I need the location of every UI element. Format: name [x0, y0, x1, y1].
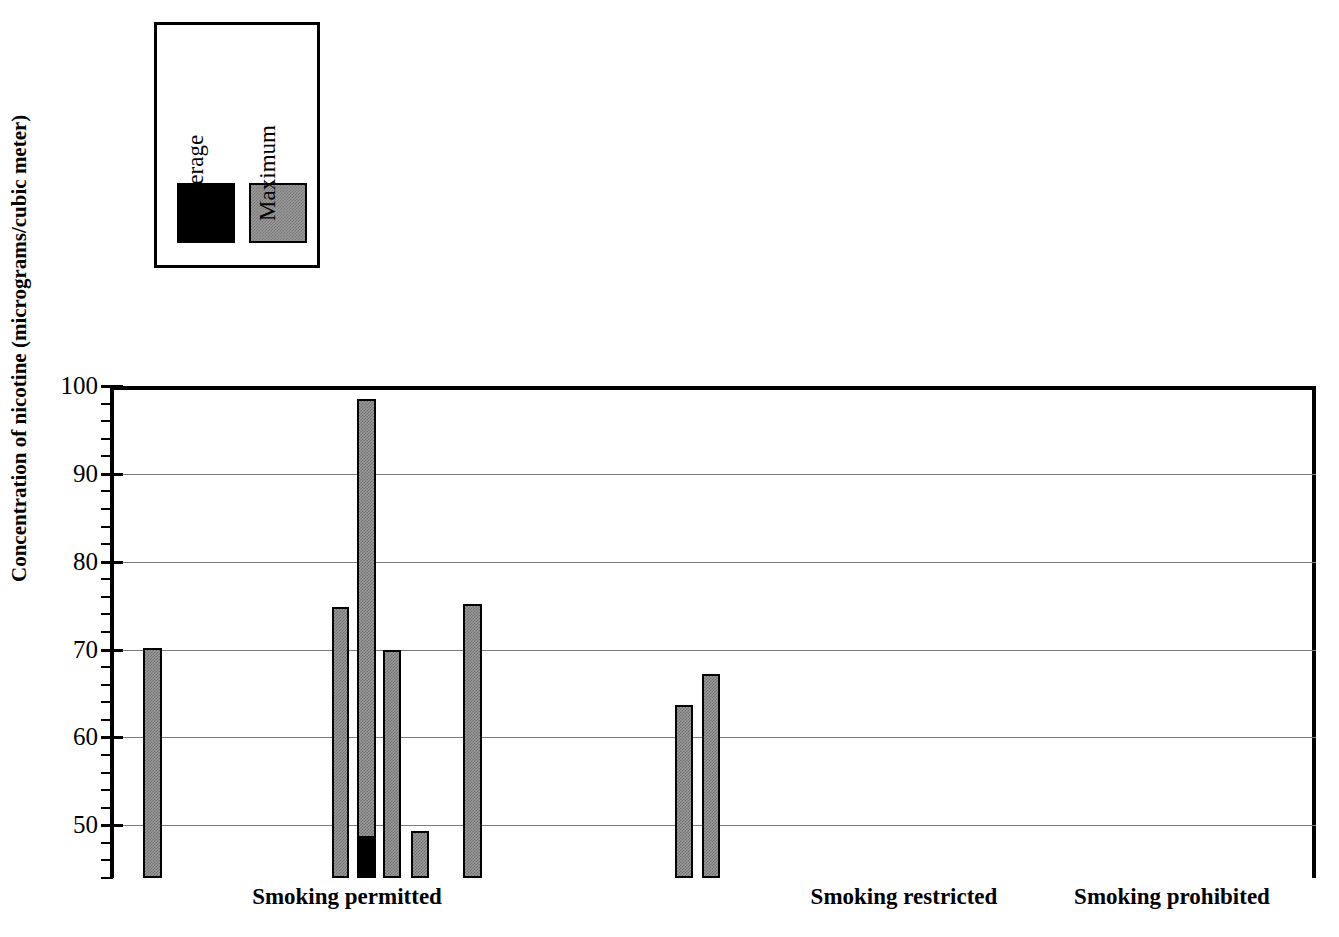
y-axis-minor-tick [101, 877, 113, 879]
y-axis-minor-tick [101, 684, 113, 686]
y-axis-minor-tick [101, 842, 113, 844]
y-axis-minor-tick [101, 543, 113, 545]
bar-maximum [463, 604, 482, 878]
x-axis-category-label: Smoking restricted [811, 884, 998, 910]
y-axis-major-tick [101, 736, 123, 739]
y-axis-minor-tick [101, 613, 113, 615]
bar-maximum [702, 674, 720, 878]
x-axis-category-label: Smoking permitted [252, 884, 442, 910]
plot-area: 1009080706050 [110, 386, 1316, 878]
y-axis-minor-tick [101, 789, 113, 791]
legend-entry-maximum: Maximum [249, 183, 313, 243]
bar-maximum [675, 705, 693, 878]
y-axis-minor-tick [101, 578, 113, 580]
y-axis-minor-tick [101, 403, 113, 405]
y-axis-tick-label: 90 [73, 460, 98, 488]
bar-maximum [357, 399, 376, 878]
y-axis-minor-tick [101, 526, 113, 528]
y-axis-tick-label: 50 [73, 811, 98, 839]
bar-average [357, 836, 376, 878]
y-axis-major-tick [101, 561, 123, 564]
y-axis-tick-label: 60 [73, 723, 98, 751]
y-axis-minor-tick [101, 719, 113, 721]
y-axis-minor-tick [101, 420, 113, 422]
y-axis-minor-tick [101, 859, 113, 861]
y-axis-minor-tick [101, 631, 113, 633]
legend-label-maximum: Maximum [255, 125, 281, 221]
y-axis-minor-tick [101, 666, 113, 668]
y-axis-minor-tick [101, 438, 113, 440]
chart-legend: Average Maximum [154, 22, 320, 268]
y-axis-minor-tick [101, 754, 113, 756]
y-axis-major-tick [101, 385, 123, 388]
y-axis-minor-tick [101, 508, 113, 510]
y-axis-minor-tick [101, 490, 113, 492]
y-axis-minor-tick [101, 596, 113, 598]
legend-entry-average: Average [177, 183, 241, 243]
y-axis-minor-tick [101, 701, 113, 703]
bar-maximum [332, 607, 349, 878]
bar-maximum [143, 648, 162, 878]
gridline [110, 474, 1316, 475]
y-axis-tick-label: 70 [73, 636, 98, 664]
y-axis-minor-tick [101, 772, 113, 774]
y-axis-major-tick [101, 649, 123, 652]
legend-label-average: Average [183, 135, 209, 211]
y-axis-minor-tick [101, 455, 113, 457]
bar-maximum [383, 650, 401, 878]
y-axis-minor-tick [101, 807, 113, 809]
y-axis-tick-label: 80 [73, 548, 98, 576]
y-axis-title: Concentration of nicotine (micrograms/cu… [0, 0, 38, 600]
gridline [110, 650, 1316, 651]
y-axis-tick-label: 100 [61, 372, 99, 400]
bar-maximum [411, 831, 429, 878]
gridline [110, 562, 1316, 563]
y-axis-major-tick [101, 473, 123, 476]
y-axis-major-tick [101, 824, 123, 827]
x-axis-category-label: Smoking prohibited [1074, 884, 1270, 910]
